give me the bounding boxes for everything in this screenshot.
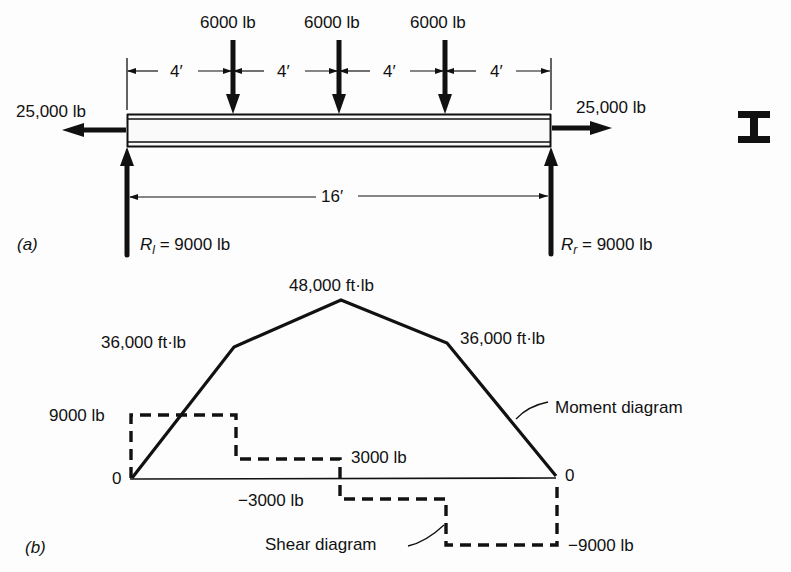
load-label-3: 6000 lb — [410, 14, 466, 31]
moment-diagram-line — [132, 300, 556, 478]
zero-left-label: 0 — [112, 470, 121, 487]
part-a-label: (a) — [17, 236, 38, 253]
zero-right-label: 0 — [565, 467, 574, 484]
axial-force-right-arrow — [552, 121, 612, 135]
shear-label-neg-9000: −9000 lb — [568, 537, 634, 554]
axial-left-label: 25,000 lb — [16, 103, 86, 120]
load-label-1: 6000 lb — [200, 14, 256, 31]
reaction-left-symbol: R — [140, 235, 152, 254]
reaction-right-arrow — [544, 147, 558, 254]
axial-right-label: 25,000 lb — [576, 99, 646, 116]
load-label-2: 6000 lb — [304, 14, 360, 31]
reaction-right-subscript: r — [573, 243, 577, 257]
part-b-label: (b) — [25, 539, 46, 556]
i-beam-section-icon — [738, 111, 770, 143]
shear-diagram-line — [131, 415, 557, 545]
point-load-arrow-3 — [438, 40, 452, 114]
shear-label-3000: 3000 lb — [351, 449, 407, 466]
spacing-label-4: 4′ — [490, 63, 503, 80]
zero-baseline — [130, 478, 556, 479]
spacing-label-1: 4′ — [170, 63, 183, 80]
moment-callout-leader — [516, 402, 548, 419]
reaction-right-symbol: R — [561, 235, 573, 254]
moment-left-label: 36,000 ft·lb — [101, 334, 186, 351]
shear-diagram-callout: Shear diagram — [265, 536, 377, 553]
moment-right-label: 36,000 ft·lb — [460, 330, 545, 347]
point-load-arrow-1 — [226, 40, 240, 114]
spacing-label-3: 4′ — [383, 63, 396, 80]
point-load-arrow-2 — [332, 40, 346, 114]
axial-force-left-arrow — [62, 123, 126, 137]
reaction-left-arrow — [120, 147, 134, 255]
reaction-left-label: Rl = 9000 lb — [140, 236, 230, 256]
moment-center-label: 48,000 ft·lb — [289, 277, 374, 294]
shear-label-9000: 9000 lb — [49, 407, 105, 424]
reaction-right-value: = 9000 lb — [582, 235, 652, 254]
beam — [127, 114, 551, 147]
moment-diagram-callout: Moment diagram — [555, 399, 683, 416]
reaction-left-value: = 9000 lb — [160, 235, 230, 254]
span-label: 16′ — [321, 188, 343, 205]
spacing-label-2: 4′ — [277, 63, 290, 80]
reaction-right-label: Rr = 9000 lb — [561, 236, 652, 256]
reaction-left-subscript: l — [152, 243, 155, 257]
shear-label-neg-3000: −3000 lb — [238, 492, 304, 509]
shear-callout-leader — [408, 525, 444, 546]
